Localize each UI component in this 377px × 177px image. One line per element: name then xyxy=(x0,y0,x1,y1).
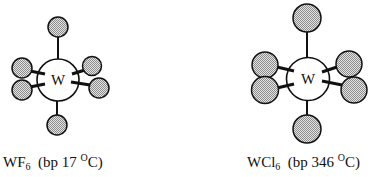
fluorine-atom-lower-right xyxy=(89,78,109,98)
chlorine-atom-lower-left xyxy=(252,77,279,104)
wf6-degree-symbol: O xyxy=(81,152,88,163)
wcl6-caption: WCl6 (bp 346 OC) xyxy=(247,153,360,171)
fluorine-atom-top xyxy=(48,17,68,37)
wcl6-bp-prefix: (bp 346 xyxy=(288,154,338,170)
chlorine-atom-bottom xyxy=(293,115,321,143)
wcl6-bp-suffix: C) xyxy=(345,154,360,170)
molecule-wcl6: W xyxy=(252,4,368,143)
chlorine-atom-top xyxy=(293,4,321,32)
chlorine-atom-upper-right xyxy=(336,51,362,77)
wcl6-metal-label: W xyxy=(301,71,316,87)
fluorine-atom-lower-left xyxy=(12,80,32,100)
diagram-canvas: W W WF6 (bp 17 OC) WCl6 (bp 346 OC) xyxy=(0,0,377,177)
wf6-bp-prefix: (bp 17 xyxy=(38,154,81,170)
wf6-bp-suffix: C) xyxy=(88,154,103,170)
molecule-diagram: W W xyxy=(0,0,377,177)
wf6-formula-base: WF xyxy=(3,154,26,170)
chlorine-atom-lower-right xyxy=(341,77,367,103)
fluorine-atom-bottom xyxy=(47,115,67,135)
wf6-formula-subscript: 6 xyxy=(26,161,31,172)
molecule-wf6: W xyxy=(12,17,109,135)
wf6-caption: WF6 (bp 17 OC) xyxy=(3,153,103,171)
chlorine-atom-upper-left xyxy=(252,52,278,78)
wcl6-formula-base: WCl xyxy=(247,154,275,170)
wf6-metal-label: W xyxy=(51,72,66,88)
fluorine-atom-upper-right xyxy=(83,57,102,76)
wcl6-degree-symbol: O xyxy=(338,152,345,163)
wcl6-formula-subscript: 6 xyxy=(275,161,280,172)
fluorine-atom-upper-left xyxy=(12,58,32,78)
